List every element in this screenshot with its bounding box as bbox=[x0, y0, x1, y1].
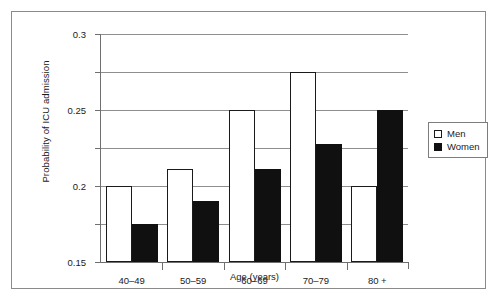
y-axis-tick: 0.15 bbox=[95, 148, 101, 149]
bar-men-0 bbox=[106, 186, 132, 262]
gridline bbox=[101, 110, 408, 111]
figure: Probability of ICU admission 00.050.10.1… bbox=[0, 0, 499, 302]
y-axis-tick-label: 0.15 bbox=[68, 257, 87, 268]
figure-frame: Probability of ICU admission 00.050.10.1… bbox=[11, 11, 486, 289]
legend-swatch-men bbox=[434, 130, 442, 138]
bar-men-2 bbox=[229, 110, 255, 262]
x-axis-line bbox=[100, 262, 409, 263]
legend-item-men: Men bbox=[434, 127, 480, 140]
y-axis-tick: 0.2 bbox=[95, 110, 101, 111]
y-axis-tick: 0.3 bbox=[95, 34, 101, 35]
bar-women-2 bbox=[255, 169, 281, 262]
bar-men-4 bbox=[351, 186, 377, 262]
bar-men-3 bbox=[290, 72, 316, 262]
y-axis-tick-label: 0.2 bbox=[73, 181, 86, 192]
y-axis-label: Probability of ICU admission bbox=[40, 27, 51, 217]
x-axis-label: Age (years) bbox=[101, 271, 408, 282]
gridline bbox=[101, 34, 408, 35]
x-axis-tick bbox=[347, 263, 348, 270]
x-axis-tick bbox=[162, 263, 163, 270]
gridline bbox=[101, 148, 408, 149]
legend: MenWomen bbox=[428, 122, 488, 158]
legend-label: Women bbox=[447, 141, 480, 152]
bar-women-0 bbox=[132, 224, 158, 262]
legend-item-women: Women bbox=[434, 140, 480, 153]
y-axis-tick: 0.1 bbox=[95, 186, 101, 187]
y-axis-tick-label: 0.25 bbox=[68, 105, 87, 116]
bar-women-4 bbox=[377, 110, 403, 262]
gridline bbox=[101, 72, 408, 73]
x-axis-tick bbox=[285, 263, 286, 270]
y-axis-tick: 0.25 bbox=[95, 72, 101, 73]
bar-women-1 bbox=[193, 201, 219, 262]
y-axis-tick: 0 bbox=[95, 262, 101, 263]
bar-men-1 bbox=[167, 169, 193, 262]
y-axis-tick: 0.05 bbox=[95, 224, 101, 225]
y-axis-tick-label: 0.3 bbox=[73, 29, 86, 40]
plot-area: 00.050.10.150.20.250.3 40–4950–5960–6970… bbox=[101, 34, 408, 262]
legend-swatch-women bbox=[434, 143, 442, 151]
x-axis-end-tick bbox=[408, 262, 409, 269]
bar-women-3 bbox=[316, 144, 342, 262]
x-axis-tick bbox=[224, 263, 225, 270]
legend-label: Men bbox=[447, 128, 465, 139]
